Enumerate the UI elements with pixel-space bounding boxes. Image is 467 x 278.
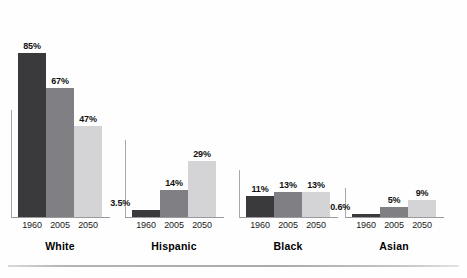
bar-value-label: 13% — [307, 180, 324, 190]
category-label-asian: Asian — [352, 240, 436, 252]
bar-group-asian: 0.6%5%9% — [345, 0, 448, 218]
bar-slot-hispanic-1960[interactable]: 3.5% — [132, 210, 160, 217]
bar-white-2005[interactable] — [46, 88, 74, 217]
bottom-divider — [8, 265, 459, 267]
year-tick-1960: 1960 — [18, 220, 46, 230]
bar-hispanic-2050[interactable] — [188, 161, 216, 217]
bar-white-1960[interactable] — [18, 53, 46, 217]
bar-slot-asian-2005[interactable]: 5% — [380, 207, 408, 217]
bars-container: 3.5%14%29% — [132, 161, 216, 217]
bar-value-label: 13% — [279, 180, 296, 190]
bar-value-label: 9% — [416, 188, 429, 198]
bar-slot-asian-1960[interactable]: 0.6% — [352, 214, 380, 217]
year-ticks-asian: 196020052050 — [352, 220, 436, 230]
bar-group-hispanic: 3.5%14%29% — [125, 0, 228, 218]
bar-slot-black-1960[interactable]: 11% — [246, 196, 274, 217]
year-tick-2050: 2050 — [302, 220, 330, 230]
year-ticks-white: 196020052050 — [18, 220, 102, 230]
year-tick-1960: 1960 — [132, 220, 160, 230]
year-tick-2050: 2050 — [188, 220, 216, 230]
year-axis: 1960200520501960200520501960200520501960… — [0, 220, 467, 234]
bar-black-1960[interactable] — [246, 196, 274, 217]
bar-slot-white-1960[interactable]: 85% — [18, 53, 46, 217]
bar-value-label: 29% — [193, 149, 210, 159]
bar-value-label: 47% — [79, 114, 96, 124]
year-tick-2050: 2050 — [74, 220, 102, 230]
year-tick-1960: 1960 — [246, 220, 274, 230]
bar-slot-white-2050[interactable]: 47% — [74, 126, 102, 217]
year-tick-1960: 1960 — [352, 220, 380, 230]
bar-asian-2050[interactable] — [408, 200, 436, 217]
bar-group-white: 85%67%47% — [11, 0, 114, 218]
bar-black-2005[interactable] — [274, 192, 302, 217]
year-ticks-hispanic: 196020052050 — [132, 220, 216, 230]
group-baseline — [125, 217, 224, 218]
category-axis: WhiteHispanicBlackAsian — [0, 240, 467, 256]
bar-slot-white-2005[interactable]: 67% — [46, 88, 74, 217]
group-baseline — [345, 217, 444, 218]
bar-value-label: 11% — [252, 184, 269, 194]
year-tick-2005: 2005 — [380, 220, 408, 230]
category-label-white: White — [18, 240, 102, 252]
bar-value-label: 14% — [165, 178, 182, 188]
bar-value-label: 0.6% — [330, 202, 350, 212]
category-label-hispanic: Hispanic — [132, 240, 216, 252]
bar-asian-1960[interactable] — [352, 214, 380, 217]
bar-chart-figure: 85%67%47%3.5%14%29%11%13%13%0.6%5%9% 196… — [0, 0, 467, 278]
group-baseline — [11, 217, 110, 218]
bar-asian-2005[interactable] — [380, 207, 408, 217]
group-baseline — [239, 217, 338, 218]
bar-slot-hispanic-2050[interactable]: 29% — [188, 161, 216, 217]
bar-black-2050[interactable] — [302, 192, 330, 217]
year-ticks-black: 196020052050 — [246, 220, 330, 230]
year-tick-2005: 2005 — [46, 220, 74, 230]
bars-container: 85%67%47% — [18, 53, 102, 217]
bar-value-label: 3.5% — [110, 198, 130, 208]
bar-slot-asian-2050[interactable]: 9% — [408, 200, 436, 217]
category-label-black: Black — [246, 240, 330, 252]
group-separator — [239, 170, 240, 218]
bar-white-2050[interactable] — [74, 126, 102, 217]
bar-hispanic-2005[interactable] — [160, 190, 188, 217]
bar-slot-black-2050[interactable]: 13% — [302, 192, 330, 217]
bar-hispanic-1960[interactable] — [132, 210, 160, 217]
bar-group-black: 11%13%13% — [239, 0, 342, 218]
bar-value-label: 5% — [388, 195, 401, 205]
group-separator — [11, 110, 12, 218]
bar-slot-hispanic-2005[interactable]: 14% — [160, 190, 188, 217]
bars-container: 0.6%5%9% — [352, 200, 436, 217]
bar-value-label: 85% — [23, 41, 40, 51]
bar-value-label: 67% — [51, 76, 68, 86]
plot-area: 85%67%47%3.5%14%29%11%13%13%0.6%5%9% — [0, 0, 467, 218]
bars-container: 11%13%13% — [246, 192, 330, 217]
year-tick-2005: 2005 — [274, 220, 302, 230]
bar-slot-black-2005[interactable]: 13% — [274, 192, 302, 217]
year-tick-2050: 2050 — [408, 220, 436, 230]
year-tick-2005: 2005 — [160, 220, 188, 230]
